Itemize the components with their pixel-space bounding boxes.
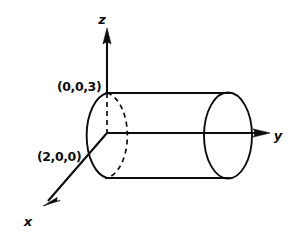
point-label-top: (0,0,3) bbox=[57, 79, 101, 94]
axis-labels-group: z y x bbox=[23, 12, 283, 229]
x-axis-arrowhead-icon bbox=[43, 197, 60, 206]
axes-group bbox=[43, 28, 270, 206]
cylinder-group bbox=[87, 93, 252, 179]
y-axis-label: y bbox=[274, 128, 283, 143]
figure-container: z y x (0,0,3) (2,0,0) bbox=[0, 0, 298, 236]
x-axis-line bbox=[48, 133, 107, 201]
z-axis-arrowhead-icon bbox=[103, 28, 111, 44]
y-axis-arrowhead-icon bbox=[253, 129, 270, 137]
coordinate-cylinder-diagram: z y x (0,0,3) (2,0,0) bbox=[0, 0, 298, 236]
point-label-front: (2,0,0) bbox=[37, 149, 81, 164]
right-cap-ellipse bbox=[204, 93, 252, 179]
x-axis-label: x bbox=[23, 214, 33, 229]
z-axis-label: z bbox=[97, 12, 106, 27]
left-cap-back-arc bbox=[107, 93, 127, 178]
